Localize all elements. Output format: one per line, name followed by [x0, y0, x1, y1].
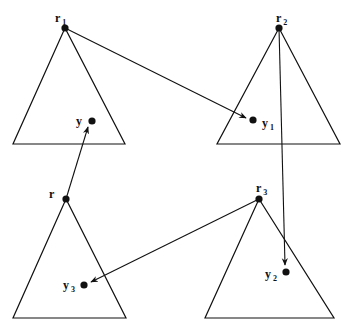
- arrow-from-r3: [91, 199, 259, 282]
- triangle-t4: [205, 199, 334, 318]
- triangles-group: [13, 28, 340, 318]
- label-r1: r1: [55, 11, 66, 27]
- triangle-t1: [13, 28, 125, 144]
- nodes-group: [61, 24, 289, 288]
- arrow-from-r1: [65, 28, 246, 118]
- node-r: [62, 195, 69, 202]
- tree-diagram: r1r2rr3yy1y3y2: [0, 0, 352, 329]
- label-y3: y3: [63, 278, 75, 294]
- node-y1: [249, 116, 256, 123]
- node-r3: [255, 195, 262, 202]
- triangle-t3: [13, 199, 126, 318]
- node-y: [88, 117, 95, 124]
- arrow-from-r2: [279, 28, 285, 265]
- label-y1: y1: [262, 116, 274, 132]
- label-r2: r2: [276, 11, 287, 27]
- labels-group: r1r2rr3yy1y3y2: [49, 11, 287, 294]
- label-r3: r3: [256, 181, 267, 197]
- arrows-group: [65, 28, 285, 282]
- label-y2: y2: [265, 267, 277, 283]
- node-r2: [275, 24, 282, 31]
- node-y2: [282, 268, 289, 275]
- label-y: y: [76, 114, 82, 128]
- label-r: r: [49, 187, 55, 201]
- triangle-t2: [217, 28, 340, 144]
- arrow-from-r: [66, 127, 88, 199]
- node-y3: [80, 281, 87, 288]
